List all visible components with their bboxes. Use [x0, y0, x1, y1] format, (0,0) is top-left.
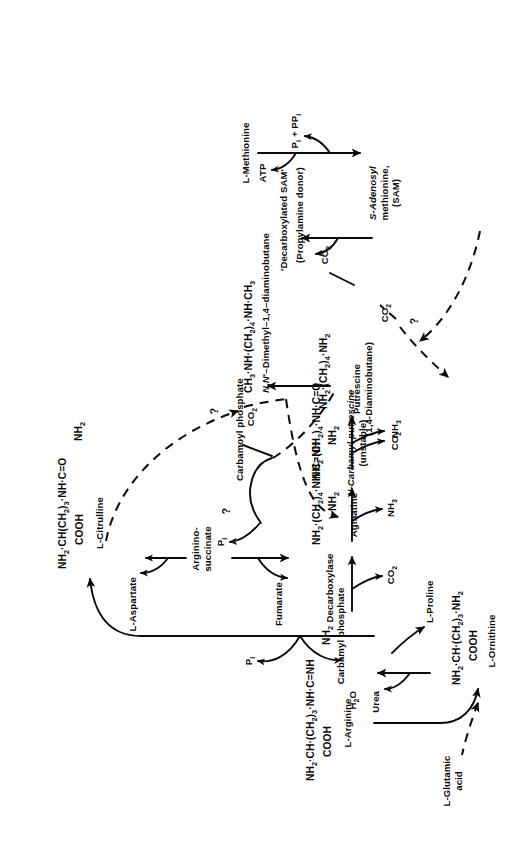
- dashed-citrulline-to-co2-branch: [106, 411, 238, 541]
- label-water: H2O: [348, 691, 361, 710]
- label-agmatine-name: Agmatine: [349, 493, 360, 538]
- label-question-mark-3: ?: [408, 318, 420, 325]
- label-carbamyl-phosphate: Carbamyl phosphate: [336, 588, 347, 685]
- arrow-fumarate-out: [258, 558, 287, 578]
- label-arginine-structure: NH2·CH·(CH2)3·NH·C=NH: [305, 659, 319, 781]
- label-urea: Urea: [371, 691, 382, 713]
- label-l-aspartate: L-Aspartate: [128, 577, 139, 631]
- label-arginine-structure-line2: COOH: [322, 726, 333, 757]
- label-fumarate: Fumarate: [274, 582, 285, 626]
- label-arginine-structure-line3: NH2: [321, 626, 335, 645]
- label-nh3-out-2: NH3: [390, 420, 403, 438]
- label-co2-sam: CO2: [320, 246, 333, 265]
- label-carbamoyl-phosphate: Carbamoyl phosphate: [235, 378, 246, 481]
- figure-page: Carbamyl phosphate Pi NH2·CH(CH2)3·NH·C=…: [0, 0, 509, 841]
- label-decarboxylase: Decarboxylase: [325, 553, 336, 622]
- label-propylamine-donor: (Propylamine donor): [295, 167, 306, 263]
- label-co2-lower-branch: CO2: [380, 304, 393, 323]
- label-citrulline-structure-line3: NH2: [73, 422, 87, 441]
- label-atp: ATP: [258, 164, 269, 183]
- arrow-pi-release-2: [230, 523, 260, 542]
- label-citrulline-structure-line2: COOH: [74, 514, 85, 545]
- arrow-urea-out: [385, 673, 410, 689]
- label-citrulline-structure: NH2·CH(CH2)3·NH·C=O: [57, 458, 71, 569]
- label-agmatine-structure-line2: NH2: [327, 492, 341, 511]
- rotated-figure-container: Carbamyl phosphate Pi NH2·CH(CH2)3·NH·C=…: [0, 0, 509, 841]
- label-putrescine-name: Putrescine (1,4-Diaminobutane): [351, 342, 374, 436]
- label-ornithine-name: L-Ornithine: [487, 615, 498, 668]
- label-carbamyl-putrescine-structure-line2: NH2: [327, 426, 341, 445]
- curve-carbamoyl-phosphate-spine: [251, 458, 272, 484]
- arrow-pi-release: [258, 636, 300, 661]
- label-argininosuccinate: Arginino- succinate: [190, 526, 213, 571]
- arrow-aspartate-in: [141, 558, 168, 573]
- label-question-mark-1: ?: [208, 408, 220, 415]
- label-decarboxylated-sam: 'Decarboxylated SAM': [279, 169, 290, 271]
- label-glutamic-acid: L-Glutamic acid: [441, 755, 464, 806]
- label-question-mark-2: ?: [220, 508, 232, 515]
- label-nh3-in: NH3: [386, 499, 399, 517]
- dashed-relations: [106, 231, 480, 755]
- label-putrescine-structure: NH2·(CH2)4·NH2: [318, 334, 332, 410]
- label-pi-1: Pi: [244, 657, 257, 666]
- dashed-putrescine-branch-co2: [400, 327, 448, 377]
- label-pi-ppi: Pi + PPi: [290, 114, 303, 149]
- tick-propylamine: [330, 273, 354, 285]
- label-co2-citrulline-branch: CO2: [246, 408, 259, 427]
- arrow-ornithine-to-proline: [392, 627, 424, 653]
- dashed-sam-to-putrescine: [420, 231, 480, 341]
- dashed-co2-continuation: [244, 399, 286, 407]
- dashed-glutamate-to-ornithine: [462, 703, 478, 755]
- label-citrulline-name: L-Citrulline: [95, 497, 106, 549]
- tick-carbamoyl: [243, 445, 272, 456]
- label-co2-decarboxylase: CO2: [386, 566, 399, 585]
- label-ornithine-structure-line2: COOH: [468, 630, 479, 661]
- label-dimethyl-name: N,N'–Dimethyl–1,4–diaminobutane: [261, 233, 272, 393]
- label-methionine: L-Methionine: [241, 123, 252, 184]
- arrow-pi-ppi-out: [305, 136, 330, 153]
- label-dimethyl-structure: CH3·NH·(CH2)4·NH·CH3: [243, 281, 257, 393]
- label-pi-2: Pi: [216, 538, 229, 547]
- curve-carbamoyl-phosphate-in: [250, 484, 261, 523]
- arrow-atp-in: [272, 153, 296, 170]
- label-ornithine-structure: NH2·CH·(CH2)3·NH2: [451, 591, 465, 685]
- arrow-co2-out-decarboxylase: [352, 576, 382, 589]
- label-sam: S-Adenosyl methionine, (SAM): [367, 166, 402, 221]
- label-proline: L-Proline: [425, 581, 436, 623]
